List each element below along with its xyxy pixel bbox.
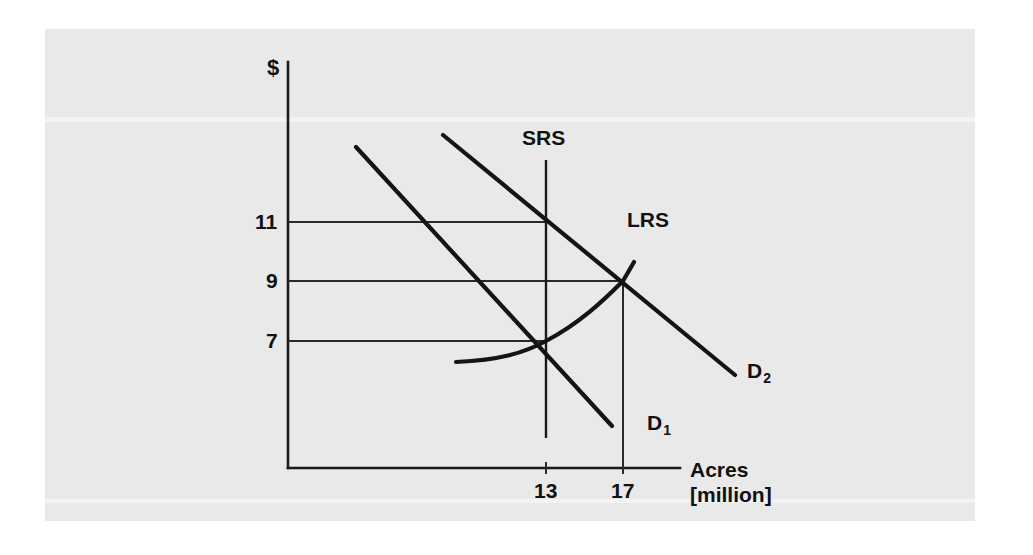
y-tick-label-9: 9 <box>266 270 278 291</box>
y-tick-label-7: 7 <box>266 330 278 351</box>
d2-curve-label-subscript: 2 <box>763 370 771 386</box>
d2-curve-label-text: D <box>747 359 762 382</box>
x-axis-title-line2: [million] <box>690 483 772 508</box>
d1-curve-label: D1 <box>647 412 670 433</box>
figure-root: $ 11 9 7 13 17 Acres [million] SRS LRS D… <box>0 0 1033 555</box>
x-axis-title-line1: Acres <box>690 458 772 483</box>
d1-curve-label-text: D <box>647 411 662 434</box>
x-tick-label-13: 13 <box>534 480 557 501</box>
d1-curve <box>356 147 612 426</box>
y-tick-label-11: 11 <box>255 211 277 232</box>
x-tick-label-17: 17 <box>611 480 634 501</box>
supply-demand-chart <box>0 0 1033 555</box>
x-axis-title: Acres [million] <box>690 458 772 508</box>
d2-curve <box>443 135 735 375</box>
lrs-curve-label: LRS <box>627 209 669 230</box>
y-axis-currency-symbol: $ <box>267 57 279 79</box>
d2-curve-label: D2 <box>747 360 770 381</box>
d1-curve-label-subscript: 1 <box>663 422 671 438</box>
srs-curve-label: SRS <box>522 127 565 148</box>
